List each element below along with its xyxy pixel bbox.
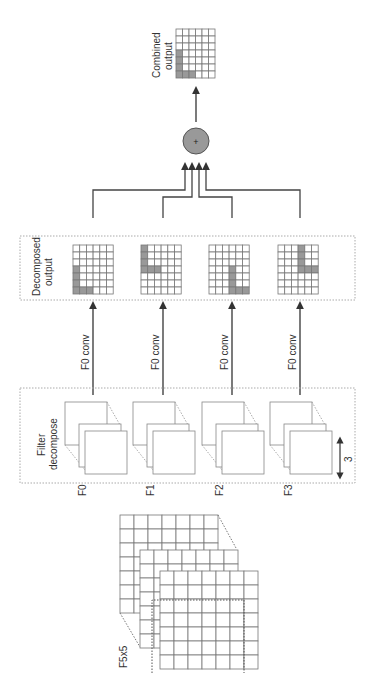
svg-text:output: output bbox=[163, 42, 174, 70]
branch-connectors bbox=[93, 166, 300, 218]
svg-text:decompose: decompose bbox=[48, 418, 59, 470]
filter-stacks bbox=[65, 402, 332, 474]
svg-text:F3: F3 bbox=[283, 484, 294, 496]
svg-text:F2: F2 bbox=[214, 484, 225, 496]
svg-text:Filter: Filter bbox=[36, 433, 47, 456]
svg-text:output: output bbox=[43, 258, 54, 286]
depth-indicator: 3 bbox=[340, 440, 354, 476]
combined-output-grid bbox=[176, 29, 215, 78]
combined-output-label: Combined output bbox=[151, 32, 174, 78]
svg-text:F0 conv: F0 conv bbox=[150, 334, 161, 370]
svg-text:Decomposed: Decomposed bbox=[31, 237, 42, 296]
svg-text:F0 conv: F0 conv bbox=[219, 334, 230, 370]
input-filter-label: F5x5 bbox=[118, 645, 129, 668]
filter-labels: F0 F1 F2 F3 bbox=[77, 484, 294, 496]
decomposed-grids bbox=[73, 245, 318, 294]
svg-text:F0: F0 bbox=[77, 484, 88, 496]
diagram: Combined output + Decomposed output F0 c… bbox=[0, 0, 369, 673]
sum-symbol: + bbox=[193, 137, 198, 147]
svg-text:F0 conv: F0 conv bbox=[80, 334, 91, 370]
conv-labels: F0 conv F0 conv F0 conv F0 conv bbox=[80, 334, 298, 370]
filter-decompose-label: Filter decompose bbox=[36, 418, 59, 470]
svg-text:Combined: Combined bbox=[151, 32, 162, 78]
conv-arrows bbox=[93, 305, 300, 395]
svg-text:F0 conv: F0 conv bbox=[287, 334, 298, 370]
input-filter-stack bbox=[120, 515, 258, 673]
decomposed-output-label: Decomposed output bbox=[31, 237, 54, 296]
svg-text:F1: F1 bbox=[145, 484, 156, 496]
svg-text:3: 3 bbox=[343, 456, 354, 462]
